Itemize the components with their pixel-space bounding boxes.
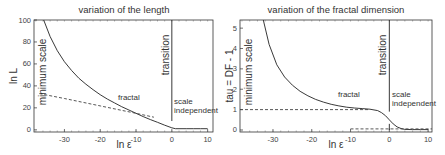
y-axis-label: tau = DF - 1 [224, 49, 235, 103]
x-tick-label: 0 [170, 135, 174, 144]
annotation-independent: independent [174, 106, 219, 115]
y-tick-label: 0 [27, 125, 31, 134]
chart-length: variation of the length -30-20-100100204… [8, 4, 219, 150]
x-tick-label: 10 [203, 135, 211, 144]
ticks: -30-20-10010012345 [233, 20, 432, 144]
annotation-minimum-scale: minimum scale [37, 38, 48, 105]
solid-series [263, 20, 428, 130]
y-axis-label: ln L [8, 68, 19, 85]
x-tick-label: -20 [95, 135, 106, 144]
x-tick-label: -10 [131, 135, 142, 144]
x-tick-label: 0 [387, 135, 391, 144]
y-tick-label: 1 [233, 105, 237, 114]
x-tick-label: 10 [424, 135, 432, 144]
annotation-scale: scale [392, 90, 411, 99]
annotation-independent: independent [392, 99, 437, 108]
x-tick-label: -30 [268, 135, 279, 144]
x-axis-label: ln ε [328, 139, 344, 150]
annotation-transition: transition [160, 35, 171, 76]
y-tick-label: 80 [23, 37, 31, 46]
x-tick-label: -30 [59, 135, 70, 144]
plot-frame [34, 20, 213, 132]
y-tick-label: 60 [23, 59, 31, 68]
x-tick-label: -10 [345, 135, 356, 144]
y-tick-label: 0 [233, 125, 237, 134]
annotation-fractal: fractal [338, 90, 360, 99]
annotation-transition: transition [377, 35, 388, 76]
annotation-fractal: fractal [118, 93, 140, 102]
y-tick-label: 40 [23, 81, 31, 90]
y-tick-label: 100 [18, 16, 31, 25]
y-tick-label: 5 [233, 24, 237, 33]
x-tick-label: -20 [306, 135, 317, 144]
y-tick-label: 20 [23, 103, 31, 112]
figure: variation of the length -30-20-100100204… [0, 0, 445, 155]
chart-title: variation of the fractal dimension [268, 4, 405, 15]
annotation-scale: scale [174, 97, 193, 106]
x-axis-label: ln ε [116, 139, 132, 150]
series [240, 20, 432, 130]
chart-title: variation of the length [79, 4, 170, 15]
annotation-minimum-scale: minimum scale [243, 38, 254, 105]
chart-fractal-dimension: variation of the fractal dimension -30-2… [224, 4, 437, 150]
plot-frame [240, 20, 432, 132]
